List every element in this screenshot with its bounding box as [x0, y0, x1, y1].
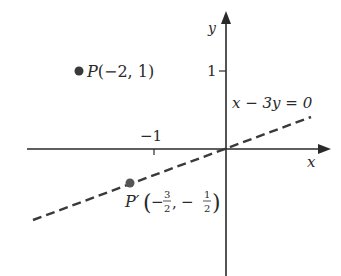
- line-equation: x − 3y = 0: [232, 94, 313, 112]
- frac-x-den: 2: [164, 203, 170, 214]
- frac-y-den: 2: [204, 203, 210, 214]
- point-p: [75, 67, 84, 76]
- y-axis-label: y: [207, 20, 217, 36]
- reflection-diagram: y x −1 1 x − 3y = 0 P(−2, 1) P′ ( − 3 2 …: [0, 0, 341, 276]
- minus-sign-2: −: [181, 193, 194, 211]
- frac-y-num: 1: [204, 189, 210, 200]
- minus-sign: −: [151, 193, 164, 211]
- point-p-label: P(−2, 1): [86, 62, 154, 81]
- point-p-prime-name: P′: [124, 192, 140, 211]
- y-tick-label: 1: [207, 62, 217, 80]
- x-tick-label: −1: [140, 127, 162, 145]
- comma: ,: [172, 194, 177, 212]
- y-axis-arrow-icon: [221, 11, 231, 24]
- x-axis-arrow-icon: [318, 144, 331, 154]
- paren-close: ): [212, 190, 221, 215]
- frac-x-num: 3: [164, 189, 170, 200]
- point-p-prime: [126, 179, 135, 188]
- x-axis-label: x: [307, 153, 316, 171]
